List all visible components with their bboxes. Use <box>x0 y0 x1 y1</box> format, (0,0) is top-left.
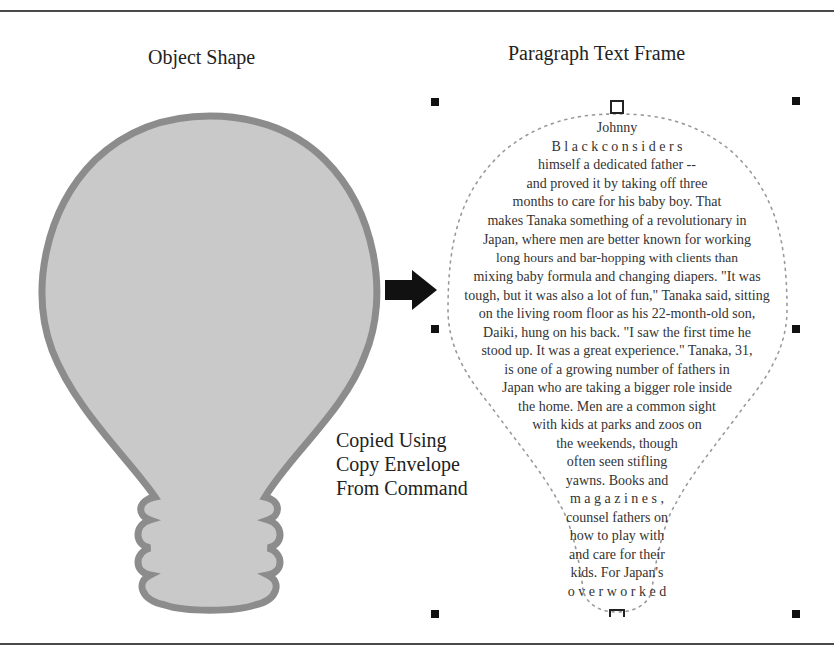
handle-bottom-left[interactable] <box>431 610 439 618</box>
text-line: Japan who are taking a bigger role insid… <box>417 379 817 398</box>
text-line: counsel fathers on <box>417 509 817 528</box>
text-line: and proved it by taking off three <box>417 175 817 194</box>
handle-bottom-right[interactable] <box>792 610 800 618</box>
text-line: months to care for his baby boy. That <box>417 193 817 212</box>
caption: Copied Using Copy Envelope From Command <box>336 428 468 500</box>
handle-top-left[interactable] <box>431 98 439 106</box>
text-line: Japan, where men are better known for wo… <box>417 231 817 250</box>
text-line: the weekends, though <box>417 435 817 454</box>
text-line: tough, but it was also a lot of fun," Ta… <box>417 287 817 306</box>
lightbulb-shape[interactable] <box>42 116 377 610</box>
text-line: how to play with <box>417 527 817 546</box>
text-line: is one of a growing number of fathers in <box>417 361 817 380</box>
caption-line: Copy Envelope <box>336 452 468 476</box>
text-line: kids. For Japan's <box>417 564 817 583</box>
text-line: with kids at parks and zoos on <box>417 416 817 435</box>
text-line: often seen stifling <box>417 453 817 472</box>
text-line: Johnny <box>417 119 817 138</box>
text-line: himself a dedicated father -- <box>417 156 817 175</box>
handle-middle-left[interactable] <box>431 325 439 333</box>
text-line: on the living room floor as his 22-month… <box>417 305 817 324</box>
text-line: the home. Men are a common sight <box>417 398 817 417</box>
handle-top-center[interactable] <box>610 100 624 114</box>
text-line: yawns. Books and <box>417 472 817 491</box>
caption-line: From Command <box>336 476 468 500</box>
text-line: long hours and bar-hopping with clients … <box>417 249 817 268</box>
text-line: B l a c k c o n s i d e r s <box>417 138 817 157</box>
text-line: and care for their <box>417 546 817 565</box>
handle-middle-right[interactable] <box>792 325 800 333</box>
caption-line: Copied Using <box>336 428 468 452</box>
handle-bottom-center[interactable] <box>609 609 625 617</box>
text-line: o v e r w o r k e d <box>417 583 817 602</box>
text-line: Daiki, hung on his back. "I saw the firs… <box>417 324 817 343</box>
text-line: makes Tanaka something of a revolutionar… <box>417 212 817 231</box>
text-line: stood up. It was a great experience." Ta… <box>417 342 817 361</box>
handle-top-right[interactable] <box>792 97 800 105</box>
text-line: mixing baby formula and changing diapers… <box>417 268 817 287</box>
text-line: m a g a z i n e s , <box>417 490 817 509</box>
